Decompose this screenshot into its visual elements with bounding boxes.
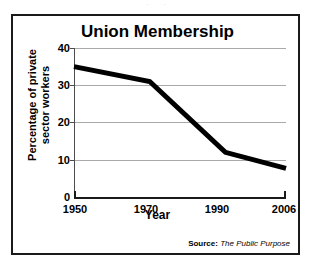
x-axis-spine: [74, 197, 286, 199]
y-axis-title-line1: Percentage of private: [26, 49, 38, 161]
data-series-line: [74, 48, 286, 197]
chart-figure-frame: Union Membership Percentage of private s…: [11, 14, 300, 255]
ytick-label-40: 40: [58, 42, 70, 54]
y-axis-title-line2: sector workers: [39, 30, 52, 180]
chart-title: Union Membership: [13, 22, 302, 42]
ytick-label-20: 20: [58, 116, 70, 128]
ytick-label-10: 10: [58, 154, 70, 166]
source-note: Source: The Public Purpose: [188, 239, 290, 248]
plot-area: 40 30 20 10 0 1950 1970 1990 2006: [74, 48, 286, 197]
x-axis-title: Year: [13, 208, 302, 222]
y-axis-title: Percentage of private sector workers: [26, 30, 56, 180]
page-text-fragment: . .: [0, 0, 318, 9]
source-label: Source:: [188, 239, 218, 248]
ytick-label-30: 30: [58, 79, 70, 91]
source-name: The Public Purpose: [220, 239, 290, 248]
ytick-label-0: 0: [64, 191, 70, 203]
